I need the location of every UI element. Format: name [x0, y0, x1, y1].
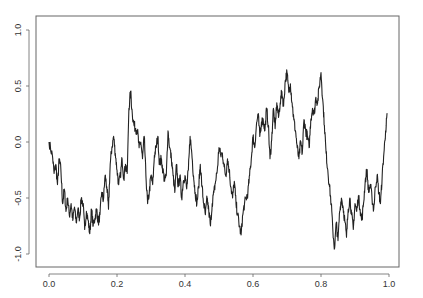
y-tick-label: -0.5	[13, 190, 23, 206]
x-tick-label: 0.4	[179, 279, 192, 289]
x-axis: 0.00.20.40.60.81.0	[43, 274, 396, 289]
y-tick-label: 0.0	[13, 136, 23, 149]
y-axis: -1.0-0.50.00.51.0	[13, 24, 29, 262]
x-tick-label: 0.6	[247, 279, 260, 289]
y-tick-label: 0.5	[13, 80, 23, 93]
x-tick-label: 0.8	[315, 279, 328, 289]
x-tick-label: 0.0	[43, 279, 56, 289]
data-line	[49, 70, 387, 249]
line-chart: 0.00.20.40.60.81.0 -1.0-0.50.00.51.0	[0, 0, 423, 298]
y-tick-label: -1.0	[13, 246, 23, 262]
x-tick-label: 0.2	[111, 279, 124, 289]
y-tick-label: 1.0	[13, 24, 23, 37]
x-tick-label: 1.0	[383, 279, 396, 289]
